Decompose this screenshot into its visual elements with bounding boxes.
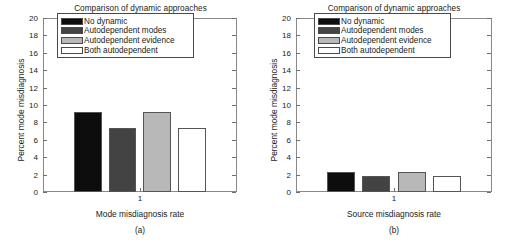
chart-title-a: Comparison of dynamic approaches — [43, 4, 238, 13]
panel-caption-a: (a) — [43, 226, 237, 235]
y-axis-tick-label: 10 — [0, 101, 38, 110]
y-axis-tick-label: 0 — [0, 188, 38, 197]
legend-item: Both autodependent — [58, 46, 193, 56]
legend-b: No dynamic Autodependent modes Autodepen… — [314, 13, 451, 58]
y-axis-tick-label: 18 — [255, 31, 291, 40]
legend-swatch-autodependent-evidence — [318, 37, 340, 44]
y-axis-tick-mark — [43, 175, 47, 176]
y-axis-tick-label: 18 — [0, 31, 38, 40]
y-axis-tick-mark — [296, 105, 300, 106]
y-axis-tick-mark — [296, 18, 300, 19]
y-axis-tick-mark — [296, 88, 300, 89]
y-axis-tick-mark-right — [232, 88, 236, 89]
legend-item: No dynamic — [58, 16, 193, 26]
y-axis-tick-label: 8 — [255, 118, 291, 127]
y-axis-tick-label: 16 — [255, 48, 291, 57]
legend-item: No dynamic — [315, 16, 450, 26]
y-axis-tick-label: 12 — [255, 83, 291, 92]
legend-swatch-autodependent-modes — [61, 27, 83, 34]
bar-both-autodependent — [178, 128, 206, 192]
y-axis-tick-mark-right — [232, 18, 236, 19]
y-axis-tick-label: 20 — [0, 14, 38, 23]
y-axis-tick-mark-right — [487, 18, 491, 19]
y-axis-tick-mark — [43, 140, 47, 141]
bar-autodependent-modes — [109, 128, 137, 192]
legend-swatch-autodependent-evidence — [61, 37, 83, 44]
y-axis-tick-mark-right — [487, 175, 491, 176]
x-axis-tick-mark-a — [140, 188, 141, 192]
legend-swatch-no-dynamic — [61, 18, 83, 25]
legend-item: Autodependent modes — [58, 26, 193, 36]
legend-swatch-no-dynamic — [318, 18, 340, 25]
y-axis-tick-mark-right — [487, 140, 491, 141]
y-axis-tick-mark — [296, 192, 300, 193]
y-axis-tick-mark-right — [487, 88, 491, 89]
y-axis-tick-label: 6 — [255, 135, 291, 144]
y-axis-tick-label: 20 — [255, 14, 291, 23]
y-axis-tick-mark-right — [487, 122, 491, 123]
x-axis-label-b: Source misdiagnosis rate — [296, 209, 492, 219]
y-axis-tick-mark — [296, 157, 300, 158]
bar-autodependent-evidence — [143, 112, 171, 192]
y-axis-tick-label: 2 — [255, 170, 291, 179]
y-axis-tick-mark — [43, 192, 47, 193]
y-axis-tick-mark-right — [232, 53, 236, 54]
panel-a: Comparison of dynamic approaches Percent… — [0, 0, 256, 245]
y-axis-tick-mark — [43, 105, 47, 106]
y-axis-tick-mark-right — [487, 35, 491, 36]
y-axis-tick-mark-right — [232, 157, 236, 158]
legend-swatch-both-autodependent — [61, 47, 83, 54]
y-axis-tick-mark-right — [487, 53, 491, 54]
bar-both-autodependent — [433, 176, 461, 192]
bar-no-dynamic — [74, 112, 102, 192]
legend-label: Autodependent evidence — [84, 36, 175, 45]
y-axis-tick-mark-right — [487, 70, 491, 71]
y-axis-tick-mark — [296, 140, 300, 141]
legend-a: No dynamic Autodependent modes Autodepen… — [57, 13, 194, 58]
y-axis-tick-label: 14 — [0, 66, 38, 75]
y-axis-tick-mark-right — [232, 175, 236, 176]
y-axis-tick-mark — [296, 35, 300, 36]
y-axis-tick-label: 6 — [0, 135, 38, 144]
legend-label: Both autodependent — [84, 46, 158, 55]
y-axis-tick-label: 10 — [255, 101, 291, 110]
x-axis-tick-label-b: 1 — [392, 194, 396, 203]
y-axis-tick-mark-right — [487, 157, 491, 158]
chart-title-b: Comparison of dynamic approaches — [296, 4, 492, 13]
y-axis-tick-mark — [43, 18, 47, 19]
bar-no-dynamic — [327, 172, 355, 192]
y-axis-tick-mark-right — [232, 192, 236, 193]
y-axis-tick-mark — [296, 175, 300, 176]
legend-item: Autodependent evidence — [58, 36, 193, 46]
legend-item: Both autodependent — [315, 46, 450, 56]
y-axis-tick-label: 14 — [255, 66, 291, 75]
legend-label: Autodependent modes — [341, 26, 423, 35]
legend-label: Autodependent modes — [84, 26, 166, 35]
y-axis-tick-label: 0 — [255, 188, 291, 197]
y-axis-tick-label: 12 — [0, 83, 38, 92]
y-axis-tick-label: 16 — [0, 48, 38, 57]
y-axis-tick-mark-right — [232, 105, 236, 106]
y-axis-tick-mark — [43, 35, 47, 36]
y-axis-tick-mark-right — [232, 140, 236, 141]
x-axis-tick-mark-b — [394, 188, 395, 192]
y-axis-tick-mark — [43, 70, 47, 71]
figure-two-panel-bar-charts: Comparison of dynamic approaches Percent… — [0, 0, 513, 245]
legend-item: Autodependent modes — [315, 26, 450, 36]
y-axis-tick-mark — [296, 53, 300, 54]
y-axis-tick-mark-right — [232, 35, 236, 36]
y-axis-tick-label: 8 — [0, 118, 38, 127]
y-axis-tick-mark-right — [232, 122, 236, 123]
bar-autodependent-evidence — [398, 172, 426, 192]
y-axis-tick-label: 4 — [255, 153, 291, 162]
y-axis-tick-label: 4 — [0, 153, 38, 162]
y-axis-tick-mark — [43, 88, 47, 89]
panel-b: Comparison of dynamic approaches Percent… — [255, 0, 511, 245]
x-axis-label-a: Mode misdiagnosis rate — [43, 209, 237, 219]
y-axis-tick-mark — [43, 157, 47, 158]
y-axis-tick-mark-right — [487, 105, 491, 106]
legend-item: Autodependent evidence — [315, 36, 450, 46]
panel-caption-b: (b) — [296, 226, 492, 235]
y-axis-tick-mark-right — [232, 70, 236, 71]
legend-label: No dynamic — [341, 17, 384, 26]
